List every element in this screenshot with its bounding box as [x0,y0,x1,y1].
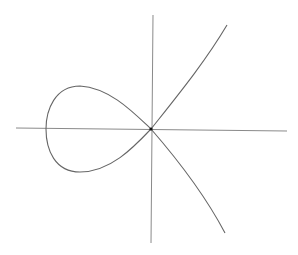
curve-diagram [0,0,298,255]
origin-node-point [149,127,152,130]
